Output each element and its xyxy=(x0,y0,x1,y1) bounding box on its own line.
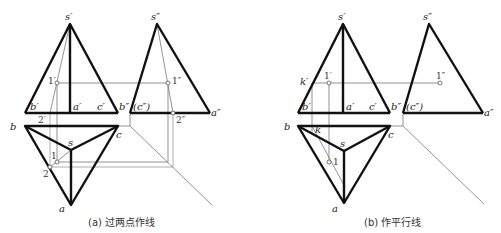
label-b-plan: b xyxy=(10,121,16,132)
label-1-plan: 1 xyxy=(333,157,339,167)
side-view-a xyxy=(130,24,210,113)
label-a-plan: a xyxy=(59,203,65,214)
pyramid-projection-diagram: s′ s″ 1′ 1″ b′ a′ c′ b″ (c″) a″ 2′ 2″ b … xyxy=(0,0,501,233)
label-c-plan: c xyxy=(388,129,394,140)
point-1-side xyxy=(166,81,170,85)
label-a-front: a′ xyxy=(346,101,355,112)
caption-b: (b) 作平行线 xyxy=(364,216,421,228)
label-2-front: 2′ xyxy=(38,115,46,125)
point-1-front xyxy=(327,81,331,85)
label-s-plan: s xyxy=(340,138,345,149)
label-a-side: a″ xyxy=(484,107,494,118)
label-c-front: c′ xyxy=(369,101,378,112)
label-1-side: 1″ xyxy=(172,76,182,86)
label-b-front: b′ xyxy=(302,101,311,112)
label-a-plan: a xyxy=(332,203,338,214)
label-b-side: b″ xyxy=(119,101,129,112)
label-b-plan: b xyxy=(284,121,290,132)
panel-b: s′ s″ k′ 1′ 1″ b′ a′ c′ b″ (c″) a″ b k c… xyxy=(284,11,494,228)
label-a-front: a′ xyxy=(73,101,82,112)
label-k-front: k′ xyxy=(300,76,309,87)
label-c-plan: c xyxy=(116,129,122,140)
label-b-front: b′ xyxy=(30,101,39,112)
label-c-front: c′ xyxy=(97,101,106,112)
panel-a: s′ s″ 1′ 1″ b′ a′ c′ b″ (c″) a″ 2′ 2″ b … xyxy=(10,11,221,228)
label-2-plan: 2 xyxy=(43,169,49,179)
point-1-plan xyxy=(327,160,331,164)
construction-lines-a xyxy=(50,24,212,205)
label-b-side: b″ xyxy=(391,101,401,112)
label-c-side: (c″) xyxy=(406,101,423,112)
label-s-front: s′ xyxy=(65,11,73,22)
label-1-plan: 1 xyxy=(51,151,57,161)
label-2-side: 2″ xyxy=(176,115,186,125)
label-a-side: a″ xyxy=(211,107,221,118)
label-1-side: 1″ xyxy=(436,71,446,81)
label-c-side: (c″) xyxy=(133,101,150,112)
side-view-b xyxy=(403,24,483,113)
caption-a: (a) 过两点作线 xyxy=(88,216,155,228)
label-1-front: 1′ xyxy=(48,76,56,86)
label-1-front: 1′ xyxy=(324,71,332,81)
label-s-front: s′ xyxy=(338,11,346,22)
point-1-side xyxy=(438,81,442,85)
front-view-a xyxy=(25,24,118,113)
label-s-side: s″ xyxy=(423,11,432,22)
point-2-side xyxy=(171,111,175,115)
label-k-plan: k xyxy=(315,124,321,135)
label-s-side: s″ xyxy=(151,11,160,22)
label-s-plan: s xyxy=(68,137,73,148)
